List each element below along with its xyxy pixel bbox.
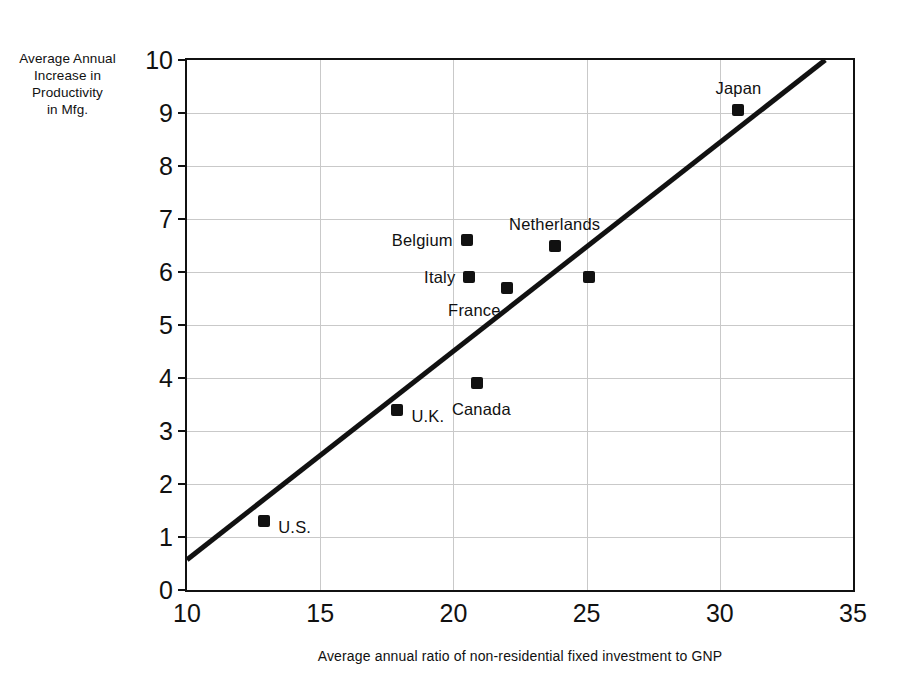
y-tick-mark xyxy=(178,218,187,220)
data-point-marker xyxy=(471,377,483,389)
y-tick-label: 5 xyxy=(159,311,173,340)
y-tick-label: 9 xyxy=(159,99,173,128)
data-point-marker xyxy=(258,515,270,527)
data-point-marker xyxy=(732,104,744,116)
y-tick-label: 2 xyxy=(159,470,173,499)
data-point-label: U.K. xyxy=(411,406,444,425)
x-tick-label: 25 xyxy=(573,599,601,628)
y-tick-label: 8 xyxy=(159,152,173,181)
data-point-label: Canada xyxy=(452,400,511,419)
data-point-marker xyxy=(461,234,473,246)
y-tick-mark xyxy=(178,324,187,326)
y-tick-label: 0 xyxy=(159,576,173,605)
x-tick-label: 10 xyxy=(173,599,201,628)
y-axis-title: Average Annual Increase in Productivity … xyxy=(0,50,135,118)
y-tick-label: 4 xyxy=(159,364,173,393)
y-axis-title-line-4: in Mfg. xyxy=(0,101,135,118)
y-axis-title-line-1: Average Annual xyxy=(0,50,135,67)
data-point-label: Netherlands xyxy=(509,215,600,234)
data-points-layer: U.S.U.K.BelgiumItalyCanadaFranceNetherla… xyxy=(187,60,853,590)
data-point-marker xyxy=(583,271,595,283)
y-tick-mark xyxy=(178,271,187,273)
plot-area: U.S.U.K.BelgiumItalyCanadaFranceNetherla… xyxy=(185,58,855,592)
data-point-label: France xyxy=(448,300,501,319)
x-tick-label: 35 xyxy=(839,599,867,628)
x-tick-label: 30 xyxy=(706,599,734,628)
x-axis-title: Average annual ratio of non-residential … xyxy=(185,648,855,664)
y-tick-mark xyxy=(178,165,187,167)
data-point-label: U.S. xyxy=(278,518,311,537)
y-axis-title-line-3: Productivity xyxy=(0,84,135,101)
y-tick-mark xyxy=(178,112,187,114)
y-tick-mark xyxy=(178,59,187,61)
x-tick-label: 15 xyxy=(306,599,334,628)
data-point-marker xyxy=(501,282,513,294)
y-tick-label: 10 xyxy=(145,46,173,75)
y-tick-label: 7 xyxy=(159,205,173,234)
data-point-label: Belgium xyxy=(392,231,453,250)
y-tick-label: 6 xyxy=(159,258,173,287)
y-tick-mark xyxy=(178,536,187,538)
y-tick-mark xyxy=(178,589,187,591)
chart-figure: Average Annual Increase in Productivity … xyxy=(0,0,904,690)
data-point-label: Italy xyxy=(424,268,455,287)
y-axis-title-line-2: Increase in xyxy=(0,67,135,84)
x-tick-label: 20 xyxy=(439,599,467,628)
y-tick-label: 1 xyxy=(159,523,173,552)
y-tick-label: 3 xyxy=(159,417,173,446)
data-point-label: Japan xyxy=(715,79,761,98)
data-point-marker xyxy=(463,271,475,283)
data-point-marker xyxy=(391,404,403,416)
y-tick-mark xyxy=(178,483,187,485)
y-tick-mark xyxy=(178,430,187,432)
y-tick-mark xyxy=(178,377,187,379)
data-point-marker xyxy=(549,240,561,252)
